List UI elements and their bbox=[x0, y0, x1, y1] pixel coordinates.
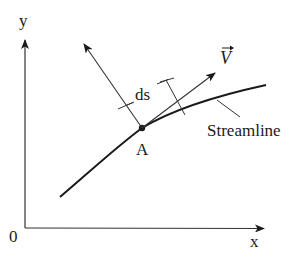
point-a-label: A bbox=[136, 140, 149, 159]
ds-label: ds bbox=[135, 85, 150, 104]
x-axis-label: x bbox=[250, 232, 259, 251]
streamline-leader bbox=[217, 100, 240, 117]
ds-dimension bbox=[118, 78, 185, 115]
y-axis-label: y bbox=[19, 11, 28, 30]
origin-label: 0 bbox=[9, 227, 18, 246]
streamline-curve bbox=[60, 85, 266, 197]
velocity-label: V bbox=[220, 48, 233, 68]
streamline-diagram: y 0 x A V ds Streamline bbox=[0, 0, 302, 260]
x-axis bbox=[25, 228, 264, 229]
streamline-label: Streamline bbox=[207, 121, 281, 140]
normal-arrow bbox=[84, 44, 142, 128]
